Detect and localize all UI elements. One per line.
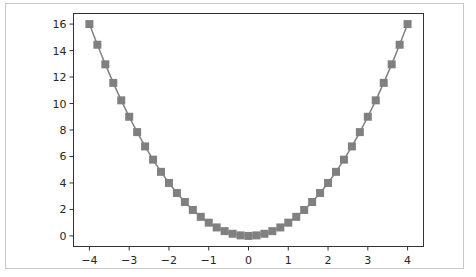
square-marker — [141, 142, 149, 150]
y-tick-label: 0 — [60, 230, 67, 243]
square-marker — [125, 113, 133, 121]
x-tick-label: 3 — [364, 254, 371, 267]
x-tick-label: −4 — [81, 254, 97, 267]
square-marker — [348, 142, 356, 150]
square-marker — [245, 232, 253, 240]
x-tick-label: −3 — [121, 254, 137, 267]
square-marker — [229, 230, 237, 238]
y-tick-label: 8 — [60, 124, 67, 137]
square-marker — [364, 113, 372, 121]
square-marker — [388, 60, 396, 68]
square-marker — [109, 79, 117, 87]
square-marker — [276, 223, 284, 231]
square-marker — [205, 219, 213, 227]
square-marker — [213, 223, 221, 231]
x-tick-label: −1 — [201, 254, 217, 267]
y-tick-label: 10 — [53, 98, 67, 111]
square-marker — [101, 60, 109, 68]
x-tick-label: −2 — [161, 254, 177, 267]
square-marker — [197, 213, 205, 221]
square-marker — [380, 79, 388, 87]
axes-box — [74, 14, 424, 247]
y-tick-label: 14 — [53, 45, 67, 58]
square-marker — [356, 128, 364, 136]
square-marker — [316, 189, 324, 197]
square-marker — [93, 41, 101, 49]
chart-plot: −4−3−2−101234 0246810121416 — [0, 0, 476, 277]
square-marker — [221, 227, 229, 235]
square-marker — [260, 230, 268, 238]
square-marker — [396, 41, 404, 49]
square-marker — [157, 168, 165, 176]
y-tick-label: 2 — [60, 203, 67, 216]
x-tick-label: 2 — [325, 254, 332, 267]
x-tick-label: 4 — [404, 254, 411, 267]
square-marker — [149, 156, 157, 164]
square-marker — [292, 213, 300, 221]
square-marker — [332, 168, 340, 176]
square-marker — [268, 227, 276, 235]
y-tick-label: 16 — [53, 18, 67, 31]
square-marker — [165, 179, 173, 187]
square-marker — [117, 96, 125, 104]
square-marker — [189, 206, 197, 214]
y-axis-ticks: 0246810121416 — [53, 18, 74, 243]
square-marker — [237, 231, 245, 239]
square-marker — [85, 20, 93, 28]
square-marker — [404, 20, 412, 28]
square-marker — [181, 198, 189, 206]
x-tick-label: 1 — [285, 254, 292, 267]
square-marker — [133, 128, 141, 136]
square-marker — [173, 189, 181, 197]
x-tick-label: 0 — [245, 254, 252, 267]
square-marker — [372, 96, 380, 104]
square-marker — [300, 206, 308, 214]
x-axis-ticks: −4−3−2−101234 — [81, 247, 411, 267]
square-marker — [308, 198, 316, 206]
y-tick-label: 12 — [53, 71, 67, 84]
y-tick-label: 6 — [60, 150, 67, 163]
y-tick-label: 4 — [60, 177, 67, 190]
square-marker — [284, 219, 292, 227]
square-marker — [324, 179, 332, 187]
square-marker — [340, 156, 348, 164]
square-marker — [252, 231, 260, 239]
